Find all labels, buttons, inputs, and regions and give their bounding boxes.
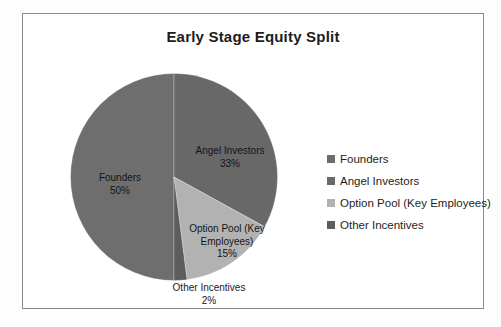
- pie-label-angel-investors-value: 33%: [185, 158, 275, 171]
- chart-frame: Early Stage Equity Split Founders 50% An…: [22, 13, 484, 309]
- chart-title: Early Stage Equity Split: [23, 28, 483, 45]
- legend-swatch-icon: [327, 199, 335, 207]
- legend-swatch-icon: [327, 155, 335, 163]
- pie-label-other-incentives-name: Other Incentives: [149, 282, 269, 295]
- legend-swatch-icon: [327, 177, 335, 185]
- pie-label-other-incentives-value: 2%: [149, 295, 269, 308]
- pie-label-option-pool-value: 15%: [181, 248, 273, 261]
- legend-label: Founders: [340, 153, 389, 165]
- pie-label-founders-value: 50%: [75, 185, 165, 198]
- legend-item-3: Other Incentives: [327, 218, 491, 231]
- legend-label: Angel Investors: [340, 175, 419, 187]
- pie-label-founders-name: Founders: [75, 172, 165, 185]
- pie-label-founders: Founders 50%: [75, 172, 165, 197]
- legend-label: Option Pool (Key Employees): [340, 197, 491, 209]
- pie-label-angel-investors: Angel Investors 33%: [185, 145, 275, 170]
- pie-label-option-pool: Option Pool (Key Employees) 15%: [181, 223, 273, 261]
- pie-label-option-pool-name: Option Pool (Key Employees): [181, 223, 273, 248]
- pie-label-other-incentives: Other Incentives 2%: [149, 282, 269, 307]
- legend-item-0: Founders: [327, 152, 491, 165]
- legend: FoundersAngel InvestorsOption Pool (Key …: [327, 152, 491, 231]
- legend-swatch-icon: [327, 221, 335, 229]
- pie-label-angel-investors-name: Angel Investors: [185, 145, 275, 158]
- legend-item-1: Angel Investors: [327, 174, 491, 187]
- legend-item-2: Option Pool (Key Employees): [327, 196, 491, 209]
- legend-label: Other Incentives: [340, 219, 424, 231]
